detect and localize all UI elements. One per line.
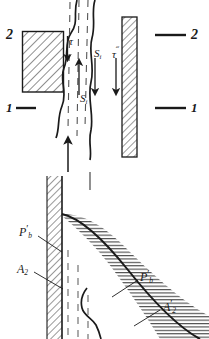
tau-right-prime-mark: ˝ (116, 46, 119, 56)
s-upper-subscript: i (100, 53, 102, 60)
section-marker-2-right: 2 (191, 27, 198, 43)
section-marker-1-right: 1 (191, 100, 198, 116)
lower-wall (47, 176, 62, 339)
pb-left-subscript: b (28, 231, 32, 240)
section-marker-1-left: 1 (6, 100, 13, 116)
upper-left-block (23, 32, 64, 93)
s-upper-label: Si (94, 48, 101, 61)
a2-left-subscript: 2 (24, 268, 28, 277)
inner-profile-curve (81, 288, 101, 339)
a2-right-label: A′2 (163, 299, 176, 315)
a2-right-subscript: 2 (172, 306, 176, 315)
a2-left-label: A2 (17, 261, 28, 277)
tau-right-label: τ˝ (112, 47, 119, 60)
tau-left-label: τ (69, 36, 73, 47)
s-lower-label: Si (80, 93, 87, 106)
right-stream-boundary (90, 0, 95, 160)
pb-left-label: P′b (19, 224, 32, 240)
pb-right-label: P′b (140, 269, 153, 285)
upper-right-wall (122, 17, 137, 157)
s-lower-subscript: i (86, 98, 88, 105)
boundary-layer-hatch (62, 214, 209, 339)
lower-streamline-dashes (68, 250, 88, 339)
diagram-canvas (0, 0, 209, 339)
figure-container: 2 2 1 1 τ τ˝ Si Si P′b A2 P′b A′2 (0, 0, 209, 339)
streamline-dashes (68, 0, 88, 136)
section-marker-2-left: 2 (6, 27, 13, 43)
pb-right-subscript: b (149, 276, 153, 285)
